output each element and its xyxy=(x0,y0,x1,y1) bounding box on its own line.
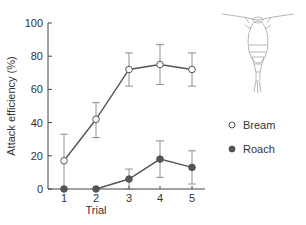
y-tick-label: 20 xyxy=(31,150,43,162)
data-point-bream xyxy=(126,66,133,73)
legend-marker-roach-icon xyxy=(229,146,235,152)
legend-marker-bream-icon xyxy=(229,122,235,128)
data-point-roach xyxy=(126,176,133,183)
data-point-bream xyxy=(189,66,196,73)
legend: Bream Roach xyxy=(229,119,275,155)
data-point-roach xyxy=(93,186,100,193)
y-tick-label: 80 xyxy=(31,50,43,62)
y-tick-label: 100 xyxy=(25,17,43,29)
data-point-roach xyxy=(157,156,164,163)
data-point-roach xyxy=(61,186,68,193)
x-tick-label: 4 xyxy=(157,192,163,204)
data-point-roach xyxy=(189,164,196,171)
data-point-bream xyxy=(93,116,100,123)
line-chart: 02040608010012345 Trial Attack efficienc… xyxy=(0,0,306,225)
y-tick-label: 60 xyxy=(31,83,43,95)
x-tick-label: 1 xyxy=(61,192,67,204)
y-tick-label: 40 xyxy=(31,117,43,129)
legend-label-roach: Roach xyxy=(243,143,275,155)
copepod-icon xyxy=(222,14,294,93)
data-point-bream xyxy=(61,157,68,164)
series-line-bream xyxy=(64,65,192,161)
y-axis-label: Attack efficiency (%) xyxy=(5,56,17,155)
legend-label-bream: Bream xyxy=(243,119,275,131)
series-lines xyxy=(64,65,192,190)
y-tick-label: 0 xyxy=(37,183,43,195)
x-axis-label: Trial xyxy=(86,204,107,216)
axes: 02040608010012345 xyxy=(25,17,205,204)
series-line-roach xyxy=(96,159,192,189)
x-tick-label: 2 xyxy=(93,192,99,204)
x-tick-label: 5 xyxy=(189,192,195,204)
series-markers xyxy=(61,61,196,192)
x-tick-label: 3 xyxy=(126,192,132,204)
data-point-bream xyxy=(157,61,164,68)
